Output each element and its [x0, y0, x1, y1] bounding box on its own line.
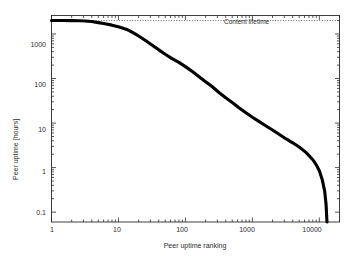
- y-tick-label-1: 1: [16, 168, 46, 175]
- y-tick-label-1000: 1000: [16, 41, 46, 48]
- x-axis-ticks: [52, 16, 340, 223]
- x-tick-label-1: 1: [38, 226, 66, 233]
- x-tick-label-10: 10: [103, 226, 131, 233]
- chart-figure: 1000 100 10 1 0.1 1 10 100 1000 10000 Pe…: [0, 0, 357, 261]
- x-axis-title: Peer uptime ranking: [125, 242, 265, 249]
- x-tick-label-100: 100: [168, 226, 196, 233]
- x-tick-label-10000: 10000: [297, 226, 327, 233]
- peer-uptime-log-log-plot: [0, 0, 357, 261]
- y-tick-label-10: 10: [16, 126, 46, 133]
- y-tick-label-0.1: 0.1: [16, 209, 46, 216]
- y-axis-title: Peer uptime [hours]: [12, 119, 19, 180]
- uptime-curve-group: [52, 21, 327, 222]
- y-axis-ticks: [52, 21, 340, 213]
- uptime-curve: [52, 21, 327, 222]
- x-tick-label-1000: 1000: [233, 226, 261, 233]
- y-tick-label-100: 100: [16, 81, 46, 88]
- content-lifetime-annotation-label: Content lifetime: [224, 18, 269, 25]
- plot-frame: [52, 16, 340, 223]
